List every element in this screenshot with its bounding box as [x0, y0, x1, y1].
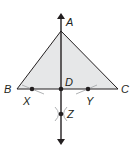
label-b: B: [4, 83, 11, 95]
label-x: X: [22, 95, 31, 107]
label-c: C: [121, 83, 129, 95]
label-z: Z: [66, 108, 75, 120]
point-z: [59, 112, 64, 117]
geometry-diagram: A B C D X Y Z: [0, 0, 137, 153]
point-d: [59, 87, 64, 92]
point-x: [30, 87, 35, 92]
point-y: [86, 87, 91, 92]
label-a: A: [65, 16, 73, 28]
arc-z-left: [55, 107, 59, 121]
label-y: Y: [86, 95, 94, 107]
label-d: D: [65, 76, 73, 88]
